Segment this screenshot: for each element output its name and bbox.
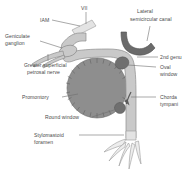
anatomy-illustration: VII IAM Geniculate ganglion Lateral semi… (0, 0, 190, 175)
label-promontory: Promontory (22, 94, 49, 100)
lateral-semicircular-canal-shape (121, 32, 155, 55)
label-vii: VII (81, 5, 87, 11)
label-gspn-line1: Greater superficial (24, 62, 67, 68)
label-oval-window-line2: window (160, 71, 178, 77)
leader-geniculate (40, 41, 62, 48)
leader-lsc (147, 26, 150, 41)
label-geniculate-ganglion-line1: Geniculate (5, 33, 30, 39)
label-stylomastoid-foramen-line1: Stylomastoid (34, 132, 64, 138)
label-lateral-semicircular-canal-line2: semicircular canal (130, 16, 172, 22)
label-geniculate-ganglion-line2: ganglion (5, 40, 25, 46)
leader-iam (52, 20, 80, 26)
label-oval-window-line1: Oval (160, 64, 171, 70)
label-lateral-semicircular-canal-line1: Lateral (137, 8, 153, 14)
label-chorda-tympani-line2: tympani (160, 101, 178, 107)
label-chorda-tympani-line1: Chorda (160, 94, 177, 100)
facial-nerve-diagram: VII IAM Geniculate ganglion Lateral semi… (0, 0, 190, 175)
label-stylomastoid-foramen-line2: foramen (34, 139, 53, 145)
label-iam: IAM (40, 17, 49, 23)
round-window-shape (115, 103, 126, 114)
pes-anserinus-terminal-branches-shape (104, 139, 141, 169)
label-round-window: Round window (45, 114, 79, 120)
label-gspn-line2: petrosal nerve (27, 69, 60, 75)
label-second-genu: 2nd genu (160, 54, 182, 60)
stylomastoid-foramen-shape (126, 131, 136, 140)
